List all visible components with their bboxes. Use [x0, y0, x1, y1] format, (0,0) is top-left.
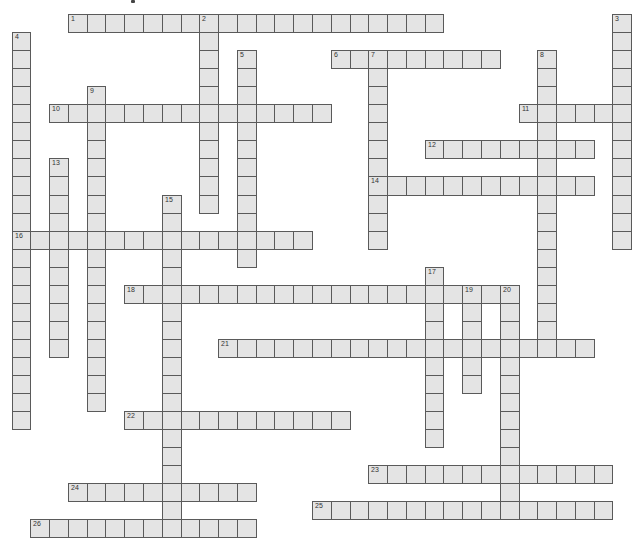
- crossword-cell[interactable]: [87, 195, 106, 214]
- crossword-cell[interactable]: [406, 50, 426, 69]
- crossword-cell[interactable]: [462, 50, 482, 69]
- crossword-cell[interactable]: [237, 158, 257, 177]
- crossword-cell[interactable]: [293, 411, 313, 430]
- crossword-cell[interactable]: [143, 411, 163, 430]
- crossword-cell[interactable]: 18: [124, 285, 144, 304]
- crossword-cell[interactable]: 10: [49, 104, 69, 123]
- crossword-cell[interactable]: [350, 501, 369, 520]
- crossword-cell[interactable]: 24: [68, 483, 88, 502]
- crossword-cell[interactable]: [68, 231, 88, 250]
- crossword-cell[interactable]: [12, 249, 31, 268]
- crossword-cell[interactable]: 1: [68, 14, 88, 33]
- crossword-cell[interactable]: [368, 104, 388, 123]
- crossword-cell[interactable]: [199, 122, 219, 141]
- crossword-cell[interactable]: [425, 393, 444, 412]
- crossword-cell[interactable]: [612, 140, 632, 159]
- crossword-cell[interactable]: [181, 104, 200, 123]
- crossword-cell[interactable]: [462, 176, 482, 196]
- crossword-cell[interactable]: [425, 501, 444, 520]
- crossword-cell[interactable]: [199, 140, 219, 159]
- crossword-cell[interactable]: [406, 14, 426, 33]
- crossword-cell[interactable]: [199, 68, 219, 87]
- crossword-cell[interactable]: [256, 14, 275, 33]
- crossword-cell[interactable]: [237, 249, 257, 268]
- crossword-cell[interactable]: [537, 213, 557, 232]
- crossword-cell[interactable]: [162, 267, 182, 286]
- crossword-cell[interactable]: [274, 285, 294, 304]
- crossword-cell[interactable]: [368, 213, 388, 232]
- crossword-cell[interactable]: [49, 176, 69, 196]
- crossword-cell[interactable]: [218, 483, 238, 502]
- crossword-cell[interactable]: [199, 32, 219, 51]
- crossword-cell[interactable]: [199, 195, 219, 214]
- crossword-cell[interactable]: [537, 140, 557, 159]
- crossword-cell[interactable]: [237, 519, 257, 538]
- crossword-cell[interactable]: [124, 104, 144, 123]
- crossword-cell[interactable]: [256, 104, 275, 123]
- crossword-cell[interactable]: [105, 231, 125, 250]
- crossword-cell[interactable]: [87, 375, 106, 394]
- crossword-cell[interactable]: [162, 285, 182, 304]
- crossword-cell[interactable]: [556, 501, 576, 520]
- crossword-cell[interactable]: [49, 303, 69, 322]
- crossword-cell[interactable]: [162, 14, 182, 33]
- crossword-cell[interactable]: [612, 122, 632, 141]
- crossword-cell[interactable]: [237, 68, 257, 87]
- crossword-cell[interactable]: [368, 68, 388, 87]
- crossword-cell[interactable]: [162, 339, 182, 358]
- crossword-cell[interactable]: [425, 50, 444, 69]
- crossword-cell[interactable]: [519, 465, 538, 484]
- crossword-cell[interactable]: [199, 483, 219, 502]
- crossword-cell[interactable]: [425, 303, 444, 322]
- crossword-cell[interactable]: [105, 519, 125, 538]
- crossword-cell[interactable]: [218, 104, 238, 123]
- crossword-cell[interactable]: [12, 267, 31, 286]
- crossword-cell[interactable]: [124, 483, 144, 502]
- crossword-cell[interactable]: [368, 195, 388, 214]
- crossword-cell[interactable]: [181, 483, 200, 502]
- crossword-cell[interactable]: [537, 249, 557, 268]
- crossword-cell[interactable]: [368, 140, 388, 159]
- crossword-cell[interactable]: [519, 140, 538, 159]
- crossword-cell[interactable]: [500, 321, 520, 340]
- crossword-cell[interactable]: [312, 104, 332, 123]
- crossword-cell[interactable]: [87, 213, 106, 232]
- crossword-cell[interactable]: [87, 104, 106, 123]
- crossword-cell[interactable]: [105, 14, 125, 33]
- crossword-cell[interactable]: [368, 86, 388, 105]
- crossword-cell[interactable]: [350, 285, 369, 304]
- crossword-cell[interactable]: [537, 303, 557, 322]
- crossword-cell[interactable]: [500, 303, 520, 322]
- crossword-cell[interactable]: 2: [199, 14, 219, 33]
- crossword-cell[interactable]: [237, 195, 257, 214]
- crossword-cell[interactable]: [143, 231, 163, 250]
- crossword-cell[interactable]: [537, 195, 557, 214]
- crossword-cell[interactable]: [519, 501, 538, 520]
- crossword-cell[interactable]: [537, 158, 557, 177]
- crossword-cell[interactable]: [237, 231, 257, 250]
- crossword-cell[interactable]: [87, 483, 106, 502]
- crossword-cell[interactable]: [500, 501, 520, 520]
- crossword-cell[interactable]: 22: [124, 411, 144, 430]
- crossword-cell[interactable]: [443, 339, 463, 358]
- crossword-cell[interactable]: [556, 104, 576, 123]
- crossword-cell[interactable]: [87, 14, 106, 33]
- crossword-cell[interactable]: [87, 393, 106, 412]
- crossword-cell[interactable]: [143, 285, 163, 304]
- crossword-cell[interactable]: [237, 483, 257, 502]
- crossword-cell[interactable]: [218, 231, 238, 250]
- crossword-cell[interactable]: [575, 501, 595, 520]
- crossword-cell[interactable]: [12, 50, 31, 69]
- crossword-cell[interactable]: 19: [462, 285, 482, 304]
- crossword-cell[interactable]: 6: [331, 50, 351, 69]
- crossword-cell[interactable]: [87, 321, 106, 340]
- crossword-cell[interactable]: [162, 411, 182, 430]
- crossword-cell[interactable]: [199, 285, 219, 304]
- crossword-cell[interactable]: [481, 285, 501, 304]
- crossword-cell[interactable]: [162, 104, 182, 123]
- crossword-cell[interactable]: 15: [162, 195, 182, 214]
- crossword-cell[interactable]: [274, 411, 294, 430]
- crossword-cell[interactable]: [443, 50, 463, 69]
- crossword-cell[interactable]: [12, 285, 31, 304]
- crossword-cell[interactable]: [237, 122, 257, 141]
